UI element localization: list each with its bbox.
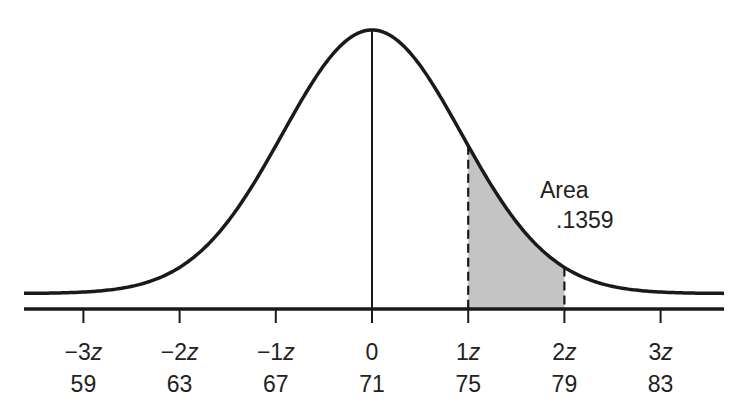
normal-curve xyxy=(24,30,724,293)
z-label: −1z xyxy=(257,339,295,365)
value-label: 67 xyxy=(263,371,289,397)
curve-path xyxy=(24,30,724,293)
value-label: 83 xyxy=(648,371,674,397)
z-label: 2z xyxy=(552,339,577,365)
area-label: Area xyxy=(540,177,589,203)
z-label: 0 xyxy=(366,339,379,365)
value-label: 79 xyxy=(552,371,578,397)
value-label: 59 xyxy=(71,371,97,397)
value-label: 63 xyxy=(167,371,193,397)
x-axis-ticks xyxy=(83,309,660,323)
z-label: −3z xyxy=(65,339,103,365)
raw-value-labels: 59636771757983 xyxy=(71,371,674,397)
value-label: 71 xyxy=(359,371,385,397)
normal-distribution-chart: −3z−2z−1z01z2z3z 59636771757983 Area .13… xyxy=(0,0,746,420)
z-label: 3z xyxy=(648,339,673,365)
value-label: 75 xyxy=(455,371,481,397)
z-score-labels: −3z−2z−1z01z2z3z xyxy=(65,339,674,365)
z-label: −2z xyxy=(161,339,199,365)
z-label: 1z xyxy=(456,339,481,365)
area-value: .1359 xyxy=(556,207,614,233)
